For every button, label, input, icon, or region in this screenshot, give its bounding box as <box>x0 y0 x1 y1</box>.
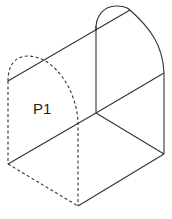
mid-right-edge <box>96 73 164 113</box>
front-bottom-dashed <box>8 164 78 206</box>
diagram-canvas: P1 <box>0 0 172 219</box>
back-arch-edge <box>96 6 164 73</box>
front-bottom-left-edge <box>8 113 96 164</box>
top-left-edge <box>8 10 130 81</box>
bottom-back-edge <box>96 113 164 154</box>
bottom-right-edge <box>78 154 164 206</box>
label-p1: P1 <box>33 100 51 117</box>
